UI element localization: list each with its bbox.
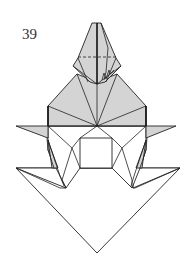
origami-diagram — [0, 0, 195, 273]
left-side-point — [16, 126, 48, 138]
bottom-point-flap — [16, 168, 180, 253]
center-panel — [80, 138, 112, 168]
right-side-point — [146, 126, 176, 138]
